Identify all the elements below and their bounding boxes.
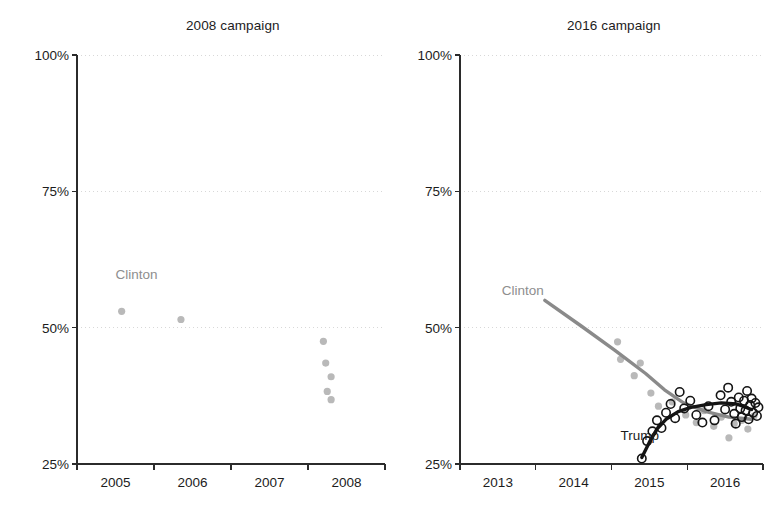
data-point (662, 409, 670, 417)
series-annotation-clinton: Clinton (116, 267, 158, 282)
data-point (614, 338, 621, 345)
y-axis-label-50%: 50% (388, 320, 452, 335)
data-point (655, 403, 662, 410)
x-axis-label-2005: 2005 (100, 475, 130, 490)
data-point (675, 388, 683, 396)
data-point (118, 308, 125, 315)
data-point (721, 405, 729, 413)
data-point (328, 373, 335, 380)
series-points-clinton (118, 308, 335, 404)
y-axis-label-25%: 25% (5, 457, 69, 472)
x-axis-label-2008: 2008 (331, 475, 361, 490)
data-point (177, 316, 184, 323)
plot-area-2008: 25%50%75%100%2005200620072008Clinton (0, 0, 390, 517)
x-axis-label-2016: 2016 (710, 475, 740, 490)
panel-2016-campaign: 2016 campaign 25%50%75%100%2013201420152… (390, 0, 773, 517)
series-annotation-trump: Trump (621, 428, 660, 443)
x-axis-label-2006: 2006 (177, 475, 207, 490)
data-point (328, 396, 335, 403)
data-point (716, 391, 724, 399)
y-axis-label-25%: 25% (388, 457, 452, 472)
panel-2008-campaign: 2008 campaign 25%50%75%100%2005200620072… (0, 0, 390, 517)
data-point (744, 425, 751, 432)
data-point (647, 390, 654, 397)
y-axis-label-100%: 100% (5, 48, 69, 63)
data-point (320, 338, 327, 345)
data-point (724, 383, 732, 391)
y-axis-label-75%: 75% (388, 184, 452, 199)
data-point (692, 411, 700, 419)
x-axis-label-2015: 2015 (634, 475, 664, 490)
series-annotation-clinton: Clinton (502, 283, 544, 298)
x-axis-label-2007: 2007 (254, 475, 284, 490)
plot-area-2016: 25%50%75%100%2013201420152016ClintonTrum… (390, 0, 773, 517)
data-point (725, 434, 732, 441)
chart-svg (390, 0, 773, 517)
x-axis-label-2014: 2014 (559, 475, 589, 490)
data-point (324, 388, 331, 395)
y-axis-label-50%: 50% (5, 320, 69, 335)
data-point (631, 372, 638, 379)
figure-two-panel-poll-chart: 2008 campaign 25%50%75%100%2005200620072… (0, 0, 773, 517)
y-axis-label-100%: 100% (388, 48, 452, 63)
y-axis-label-75%: 75% (5, 184, 69, 199)
series-points-clinton (614, 338, 758, 441)
x-axis-label-2013: 2013 (483, 475, 513, 490)
data-point (322, 360, 329, 367)
